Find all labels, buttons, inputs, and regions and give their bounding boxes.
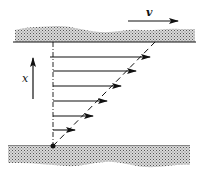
origin-dot bbox=[51, 144, 56, 149]
diagram-graphics bbox=[0, 0, 207, 172]
velocity-profile-arrows bbox=[50, 57, 150, 130]
x-axis-label: x bbox=[22, 72, 28, 85]
bottom-plate bbox=[8, 146, 190, 167]
top-plate bbox=[13, 26, 196, 42]
couette-flow-diagram: v x bbox=[0, 0, 207, 172]
velocity-label: v bbox=[146, 6, 152, 19]
